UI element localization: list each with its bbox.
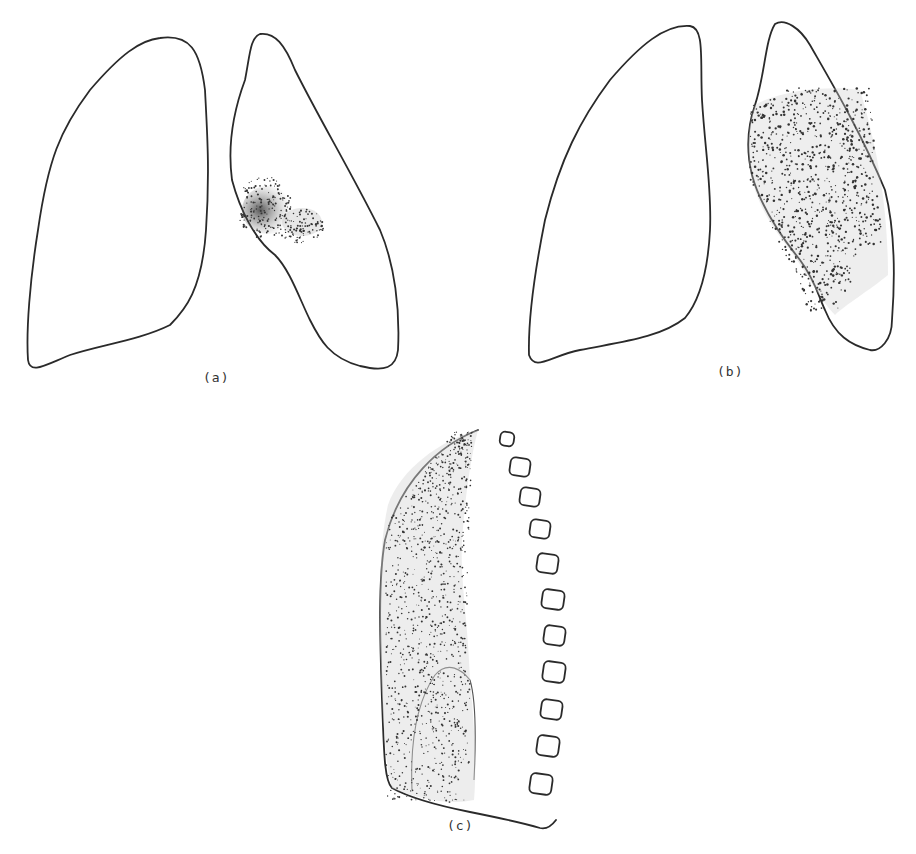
stipple-dot <box>467 691 469 693</box>
stipple-dot <box>451 781 453 783</box>
stipple-dot <box>437 557 438 558</box>
stipple-dot <box>412 633 413 634</box>
stipple-dot <box>445 510 446 511</box>
stipple-dot <box>807 191 809 193</box>
stipple-dot <box>449 554 451 556</box>
stipple-dot <box>837 226 839 228</box>
stipple-dot <box>391 653 392 654</box>
stipple-dot <box>312 229 314 231</box>
stipple-dot <box>806 213 808 215</box>
stipple-dot <box>817 189 818 190</box>
stipple-dot <box>795 257 797 259</box>
stipple-dot <box>764 199 765 200</box>
stipple-dot <box>826 283 829 286</box>
stipple-dot <box>419 519 421 521</box>
stipple-dot <box>844 247 846 249</box>
stipple-dot <box>437 705 438 706</box>
stipple-dot <box>774 216 775 217</box>
stipple-dot <box>386 674 387 675</box>
stipple-dot <box>438 463 439 464</box>
stipple-dot <box>467 467 468 468</box>
stipple-dot <box>833 250 835 252</box>
stipple-dot <box>275 183 277 185</box>
stipple-dot <box>771 134 772 135</box>
stipple-dot <box>773 98 775 100</box>
stipple-dot <box>395 540 397 542</box>
stipple-dot <box>823 298 826 301</box>
stipple-dot <box>438 625 440 627</box>
stipple-dot <box>248 221 250 223</box>
stipple-dot <box>788 258 790 260</box>
stipple-dot <box>414 617 415 618</box>
stipple-dot <box>461 478 463 480</box>
stipple-dot <box>456 432 457 433</box>
stipple-dot <box>420 600 421 601</box>
stipple-dot <box>804 104 805 105</box>
stipple-dot <box>826 292 828 294</box>
stipple-dot <box>429 674 430 675</box>
stipple-dot <box>441 564 443 566</box>
stipple-dot <box>425 681 426 682</box>
stipple-dot <box>428 703 429 704</box>
stipple-dot <box>459 440 461 442</box>
stipple-dot <box>845 121 846 122</box>
stipple-dot <box>872 140 874 142</box>
stipple-dot <box>316 213 317 214</box>
stipple-dot <box>443 747 445 749</box>
stipple-dot <box>798 87 800 89</box>
stipple-dot <box>754 165 757 168</box>
stipple-dot <box>285 229 286 230</box>
stipple-dot <box>842 138 845 141</box>
stipple-dot <box>453 486 455 488</box>
stipple-dot <box>466 502 468 504</box>
stipple-dot <box>847 168 849 170</box>
stipple-dot <box>800 138 802 140</box>
stipple-dot <box>822 93 824 95</box>
stipple-dot <box>249 182 250 183</box>
stipple-dot <box>271 207 273 209</box>
stipple-dot <box>447 675 449 677</box>
stipple-dot <box>834 101 836 103</box>
stipple-dot <box>846 248 847 249</box>
stipple-dot <box>388 547 390 549</box>
stipple-dot <box>798 217 801 220</box>
stipple-dot <box>849 156 851 158</box>
stipple-dot <box>799 202 800 203</box>
stipple-dot <box>395 646 397 648</box>
stipple-dot <box>440 490 441 491</box>
stipple-dot <box>459 667 460 668</box>
stipple-dot <box>266 213 267 214</box>
stipple-dot <box>769 120 771 122</box>
stipple-dot <box>827 118 830 121</box>
stipple-dot <box>404 601 405 602</box>
stipple-dot <box>393 624 394 625</box>
stipple-dot <box>409 654 411 656</box>
stipple-dot <box>436 478 437 479</box>
stipple-dot <box>854 207 856 209</box>
stipple-dot <box>835 200 837 202</box>
stipple-dot <box>793 113 795 115</box>
stipple-dot <box>302 225 303 226</box>
stipple-dot <box>858 149 859 150</box>
stipple-dot <box>411 546 412 547</box>
stipple-dot <box>831 236 832 237</box>
stipple-dot <box>427 780 429 782</box>
stipple-dot <box>438 673 439 674</box>
stipple-dot <box>847 196 848 197</box>
panel-a-hilar-opacity <box>239 177 323 243</box>
stipple-dot <box>403 753 404 754</box>
stipple-dot <box>767 103 768 104</box>
stipple-dot <box>416 585 417 586</box>
stipple-dot <box>450 463 451 464</box>
stipple-dot <box>397 744 398 745</box>
stipple-dot <box>779 228 780 229</box>
stipple-dot <box>299 211 301 213</box>
stipple-dot <box>415 629 417 631</box>
stipple-dot <box>830 224 831 225</box>
stipple-dot <box>848 278 850 280</box>
stipple-dot <box>461 762 463 764</box>
stipple-dot <box>875 229 878 232</box>
stipple-dot <box>818 283 820 285</box>
stipple-dot <box>808 90 810 92</box>
stipple-dot <box>268 192 269 193</box>
